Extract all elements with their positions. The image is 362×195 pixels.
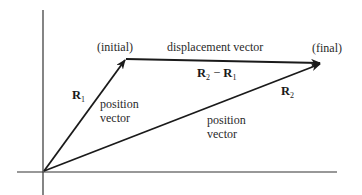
r2-sub: 2: [290, 91, 294, 100]
r1-sub: 1: [81, 95, 85, 104]
position-vector-2-line1: position: [207, 113, 246, 127]
r1-label: R1: [72, 88, 85, 104]
position-vector-1-line2: vector: [100, 111, 130, 125]
position-vector-1-line1: position: [100, 97, 139, 111]
final-label: (final): [312, 41, 342, 55]
expr-r1-sub: 1: [232, 73, 236, 82]
position-vector-2-line2: vector: [207, 127, 237, 141]
position-vector-r2: [44, 64, 320, 171]
vector-diagram: (initial) (final) displacement vector R2…: [0, 0, 362, 195]
displacement-expression: R2 − R1: [197, 66, 236, 82]
r2-label: R2: [281, 84, 294, 100]
displacement-vector-label: displacement vector: [167, 40, 263, 54]
initial-label: (initial): [97, 40, 133, 54]
expr-minus: −: [210, 66, 223, 80]
displacement-vector: [126, 59, 320, 63]
